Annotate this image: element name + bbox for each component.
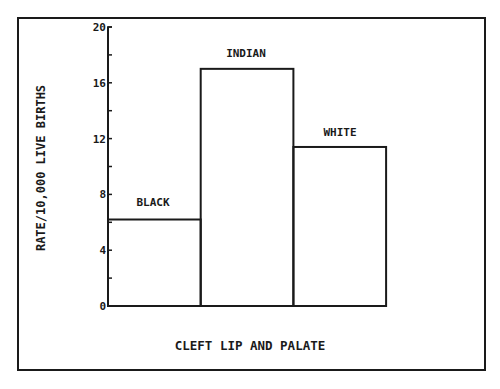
y-tick-label: 0 [99,300,106,313]
bar-black [108,220,201,306]
y-axis-title: RATE/10,000 LIVE BIRTHS [34,85,48,251]
bar-label-indian: INDIAN [226,47,266,60]
bar-white [293,147,386,306]
bar-indian [201,69,294,306]
y-tick-labels: 048121620 [93,21,107,313]
y-tick-label: 16 [93,77,107,90]
bar-chart: 048121620 BLACK INDIAN WHITE CLEFT LIP A… [0,0,500,389]
x-axis-title: CLEFT LIP AND PALATE [175,338,326,353]
bars [108,69,386,306]
bar-label-white: WHITE [323,126,356,139]
bar-label-black: BLACK [136,196,169,209]
y-tick-label: 4 [99,244,106,257]
y-tick-label: 20 [93,21,106,34]
y-tick-label: 8 [99,188,106,201]
y-tick-label: 12 [93,133,106,146]
